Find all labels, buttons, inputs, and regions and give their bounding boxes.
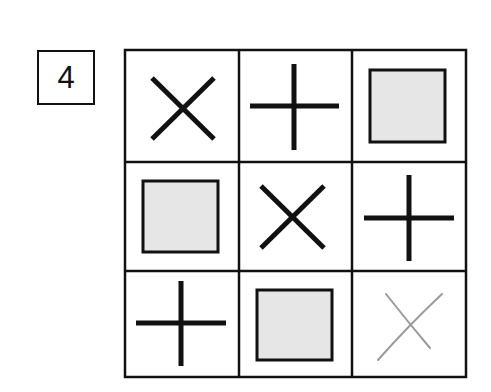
square-icon <box>257 290 332 360</box>
plus-icon <box>364 175 454 261</box>
symbol-grid <box>0 0 491 392</box>
plus-icon <box>250 64 339 150</box>
x-icon <box>152 78 214 139</box>
x-icon <box>261 186 324 248</box>
square-icon <box>370 70 445 142</box>
plus-icon <box>136 281 226 366</box>
square-icon <box>143 181 218 252</box>
light-x-icon <box>378 294 442 360</box>
